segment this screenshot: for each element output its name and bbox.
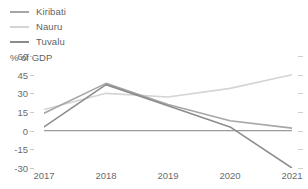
right-axis-tick (298, 131, 303, 132)
x-axis-label: 2020 (219, 170, 240, 181)
x-axis-label: 2019 (157, 170, 178, 181)
y-axis-label: 15 (17, 107, 28, 118)
right-axis-tick (298, 56, 303, 57)
y-axis-label: 60 (17, 51, 28, 62)
plot-svg (44, 56, 292, 168)
y-axis-tick (30, 112, 34, 113)
y-axis: 604530150-15-30 (0, 0, 44, 189)
x-axis: 20172018201920202021 (0, 170, 308, 186)
plot-area (44, 56, 292, 168)
right-axis-ticks (296, 0, 308, 189)
y-axis-tick (30, 168, 34, 169)
x-axis-label: 2017 (33, 170, 54, 181)
y-axis-label: 30 (17, 88, 28, 99)
right-axis-tick (298, 149, 303, 150)
right-axis-tick (298, 75, 303, 76)
y-axis-tick (30, 131, 34, 132)
y-axis-tick (30, 93, 34, 94)
right-axis-tick (298, 93, 303, 94)
line-chart: Kiribati Nauru Tuvalu % of GDP 604530150… (0, 0, 308, 189)
y-axis-tick (30, 149, 34, 150)
right-axis-tick (298, 112, 303, 113)
right-axis-tick (298, 168, 303, 169)
y-axis-label: 0 (23, 125, 28, 136)
y-axis-tick (30, 75, 34, 76)
y-axis-label: -15 (14, 144, 28, 155)
x-axis-label: 2021 (281, 170, 302, 181)
y-axis-label: 45 (17, 69, 28, 80)
y-axis-tick (30, 56, 34, 57)
x-axis-label: 2018 (95, 170, 116, 181)
